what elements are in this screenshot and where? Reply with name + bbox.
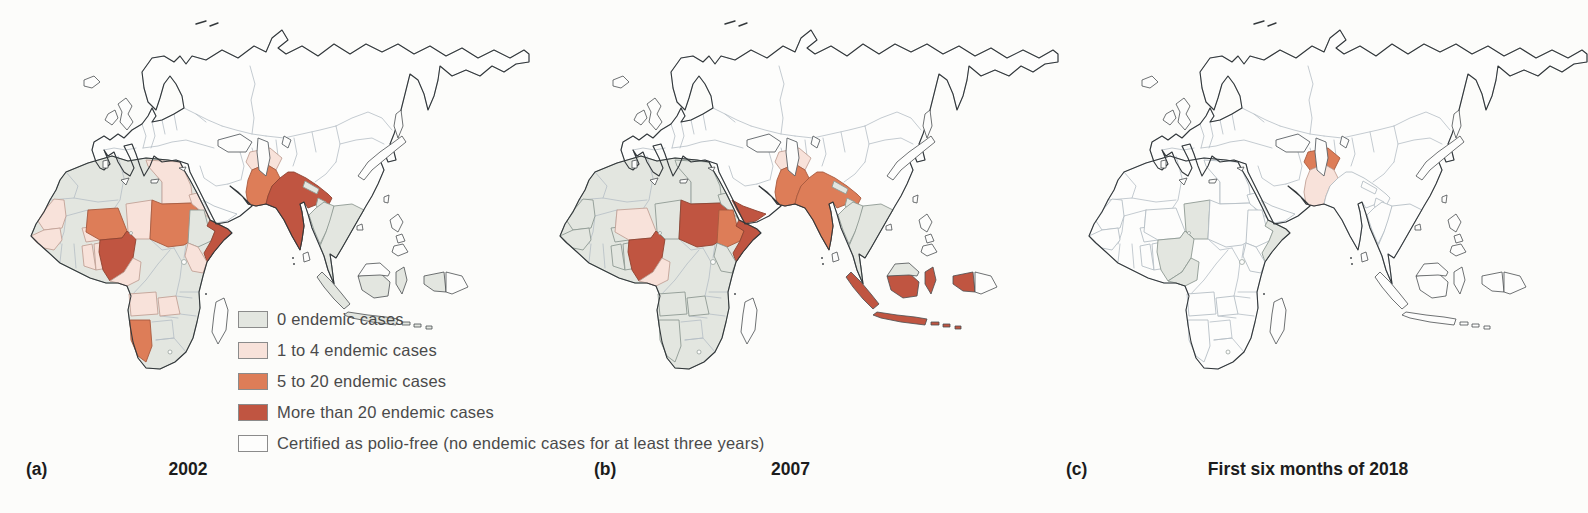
region-png	[975, 272, 997, 294]
lake-chad	[130, 232, 133, 235]
comoros-dot	[205, 293, 207, 295]
region-west-papua	[424, 272, 446, 292]
region-sardinia	[103, 160, 108, 168]
maldives-dots	[293, 263, 295, 265]
region-java	[873, 312, 927, 325]
region-uk	[1176, 98, 1191, 130]
region-iceland	[1142, 76, 1158, 88]
region-taiwan	[1442, 195, 1447, 203]
region-borneo-south	[1416, 273, 1448, 298]
legend-label-casesOver20: More than 20 endemic cases	[277, 403, 494, 422]
svalbard-islands	[725, 21, 747, 26]
legend-swatch-cases5to20	[238, 373, 268, 390]
region-lesser-sunda	[931, 322, 961, 329]
region-ireland	[634, 110, 647, 125]
region-philippines	[919, 214, 937, 256]
region-borneo-south	[887, 273, 919, 298]
region-taiwan	[384, 195, 389, 203]
legend-swatch-cases0	[238, 311, 268, 328]
maldives-dots	[1350, 257, 1352, 259]
comoros-dot	[1263, 293, 1265, 295]
lake-chad	[659, 232, 662, 235]
region-madagascar	[1270, 298, 1286, 344]
legend-item-casesOver20: More than 20 endemic cases	[238, 397, 765, 428]
region-borneo-north	[887, 263, 919, 276]
lake-victoria	[711, 260, 716, 265]
region-hainan	[357, 224, 363, 230]
region-borneo-south	[358, 273, 390, 298]
polio-maps-figure: 0 endemic cases 1 to 4 endemic cases 5 t…	[0, 0, 1588, 513]
region-taiwan	[913, 195, 918, 203]
maldives-dots	[292, 257, 294, 259]
region-zambia	[158, 296, 180, 316]
region-java	[1402, 312, 1456, 325]
region-angola	[129, 292, 158, 316]
legend-label-polio-free: Certified as polio-free (no endemic case…	[277, 434, 765, 453]
panel-caption-a: 2002	[128, 459, 248, 480]
panel-label-b: (b)	[594, 459, 616, 480]
region-uk	[118, 98, 133, 130]
region-west-papua	[1482, 272, 1504, 292]
region-zambia	[1216, 296, 1238, 316]
map-legend: 0 endemic cases 1 to 4 endemic cases 5 t…	[238, 304, 765, 459]
region-png	[1504, 272, 1526, 294]
lake-victoria	[1240, 260, 1245, 265]
lake-chad	[1188, 232, 1191, 235]
legend-label-cases1to4: 1 to 4 endemic cases	[277, 341, 437, 360]
legend-item-cases0: 0 endemic cases	[238, 304, 765, 335]
panel-caption-c: First six months of 2018	[1158, 459, 1458, 480]
maldives-dots	[1351, 263, 1353, 265]
legend-swatch-polio-free	[238, 435, 268, 452]
comoros-dot	[734, 293, 736, 295]
region-uk	[647, 98, 662, 130]
region-lesser-sunda	[1460, 322, 1490, 329]
region-sri-lanka	[832, 252, 839, 262]
panel-label-a: (a)	[26, 459, 47, 480]
world-map-c	[1058, 0, 1588, 470]
region-sri-lanka	[1361, 252, 1368, 262]
region-sardinia	[632, 160, 637, 168]
region-sri-lanka	[303, 252, 310, 262]
lake-victoria	[182, 260, 187, 265]
legend-item-polio-free: Certified as polio-free (no endemic case…	[238, 428, 765, 459]
region-west-papua	[953, 272, 975, 292]
legend-swatch-casesOver20	[238, 404, 268, 421]
lesotho-enclave	[168, 350, 172, 354]
region-sulawesi	[1454, 267, 1465, 294]
region-borneo-north	[1416, 263, 1448, 276]
legend-label-cases5to20: 5 to 20 endemic cases	[277, 372, 446, 391]
region-philippines	[390, 214, 408, 256]
region-ireland	[105, 110, 118, 125]
panel-label-c: (c)	[1066, 459, 1087, 480]
legend-swatch-cases1to4	[238, 342, 268, 359]
legend-item-cases1to4: 1 to 4 endemic cases	[238, 335, 765, 366]
maldives-dots	[821, 257, 823, 259]
region-sulawesi	[925, 267, 936, 294]
region-iceland	[613, 76, 629, 88]
region-philippines	[1448, 214, 1466, 256]
svalbard-islands	[196, 21, 218, 26]
legend-label-cases0: 0 endemic cases	[277, 310, 404, 329]
region-hainan	[1415, 224, 1421, 230]
region-borneo-north	[358, 263, 390, 276]
lesotho-enclave	[1226, 350, 1230, 354]
legend-item-cases5to20: 5 to 20 endemic cases	[238, 366, 765, 397]
map-panel-c	[1058, 0, 1588, 470]
region-ireland	[1163, 110, 1176, 125]
region-sulawesi	[396, 267, 407, 294]
region-angola	[1187, 292, 1216, 316]
maldives-dots	[822, 263, 824, 265]
region-madagascar	[212, 298, 228, 344]
region-hainan	[886, 224, 892, 230]
svalbard-islands	[1254, 21, 1276, 26]
region-sardinia	[1161, 160, 1166, 168]
region-iceland	[84, 76, 100, 88]
panel-caption-b: 2007	[733, 459, 848, 480]
region-png	[446, 272, 468, 294]
